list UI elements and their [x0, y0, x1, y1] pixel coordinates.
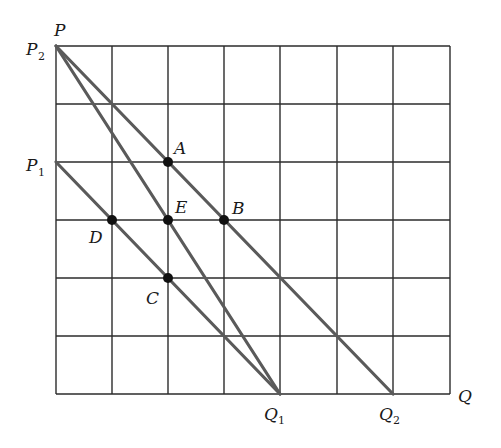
axis-label-q: Q [458, 386, 472, 406]
label-d: D [88, 227, 103, 247]
label-q1: Q 1 [264, 404, 285, 427]
point-b [219, 215, 229, 225]
label-p1-sub: 1 [38, 166, 45, 179]
axis-label-p: P [53, 20, 66, 40]
label-q1-sub: 1 [278, 414, 285, 427]
label-p1-main: P [25, 155, 38, 175]
label-p2: P 2 [25, 39, 45, 63]
label-b: B [231, 198, 245, 218]
label-e: E [174, 197, 188, 217]
label-q1-main: Q [264, 404, 278, 424]
label-p2-sub: 2 [38, 50, 45, 63]
label-q2-main: Q [379, 404, 393, 424]
label-q2-sub: 2 [393, 414, 400, 427]
point-d [107, 215, 117, 225]
label-q2: Q 2 [379, 404, 400, 427]
label-c: C [146, 288, 159, 308]
label-a: A [172, 138, 186, 158]
demand-shift-diagram: A B E D C P Q P 2 P 1 Q 1 Q 2 [0, 0, 501, 448]
label-p2-main: P [25, 39, 38, 59]
point-e [163, 215, 173, 225]
label-p1: P 1 [25, 155, 45, 179]
point-c [163, 273, 173, 283]
point-a [163, 157, 173, 167]
